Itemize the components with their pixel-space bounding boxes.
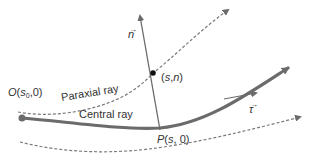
central-ray-label: Central ray: [79, 109, 133, 120]
origin-label: O(s0,0): [8, 87, 42, 99]
central-ray-start-dot: [19, 115, 26, 122]
point-sn-dot: [150, 70, 156, 76]
tangent-vector-label: → τ: [249, 104, 253, 115]
paraxial-ray-line: [18, 10, 228, 114]
point-sn-label: (s,n): [161, 72, 183, 83]
normal-vector-line: [140, 16, 160, 130]
normal-vector-label: → n: [128, 29, 134, 40]
ray-diagram: → n (s,n) O(s0,0) Paraxial ray Central r…: [0, 0, 315, 168]
vector-bar-icon: →: [129, 26, 137, 34]
vector-bar-icon: →: [250, 101, 258, 109]
point-p-label: P(s, 0): [157, 134, 189, 145]
